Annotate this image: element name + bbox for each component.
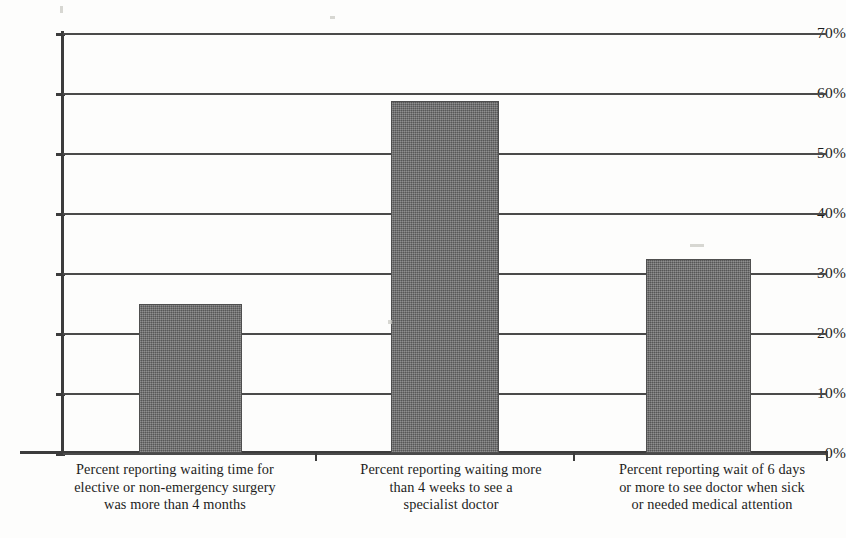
gridline-0% — [63, 453, 827, 455]
category-label-2-line-3: specialist doctor — [322, 496, 580, 514]
scan-speck — [388, 320, 392, 324]
category-label-2-line-2: than 4 weeks to see a — [322, 479, 580, 497]
bar-1 — [139, 304, 242, 453]
category-label-1-line-2: elective or non-emergency surgery — [35, 479, 315, 497]
category-label-3-line-2: or more to see doctor when sick — [580, 479, 844, 497]
x-axis-tick-1 — [315, 451, 317, 461]
gridline-60% — [63, 93, 827, 95]
gridline-70% — [63, 33, 827, 35]
category-label-3: Percent reporting wait of 6 days or more… — [580, 461, 844, 514]
x-axis-tick-3 — [826, 451, 828, 461]
category-label-2: Percent reporting waiting more than 4 we… — [322, 461, 580, 514]
category-label-1-line-1: Percent reporting waiting time for — [35, 461, 315, 479]
category-label-2-line-1: Percent reporting waiting more — [322, 461, 580, 479]
category-label-1-line-3: was more than 4 months — [35, 496, 315, 514]
scan-speck — [330, 16, 335, 19]
plot-area — [63, 33, 827, 453]
x-axis-tick-2 — [573, 451, 575, 461]
category-label-3-line-3: or needed medical attention — [580, 496, 844, 514]
bar-3 — [646, 259, 751, 453]
category-label-1: Percent reporting waiting time for elect… — [35, 461, 315, 514]
bar-chart: 70%60%50%40%30%20%10%0% Percent reportin… — [0, 0, 846, 538]
category-label-3-line-1: Percent reporting wait of 6 days — [580, 461, 844, 479]
scan-speck — [60, 6, 63, 13]
bar-2 — [391, 101, 499, 453]
scan-speck — [690, 244, 704, 247]
